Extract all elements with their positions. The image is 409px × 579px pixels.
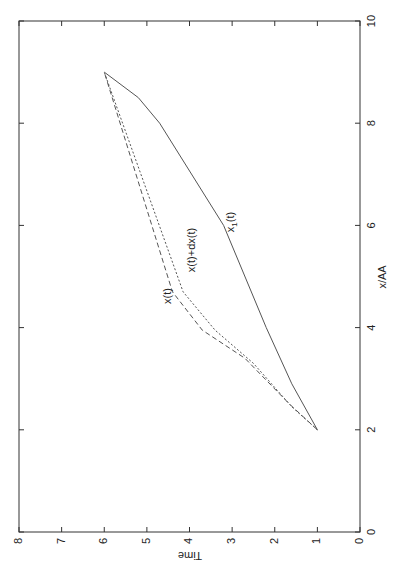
time-tick-label: 8 [12, 538, 24, 544]
time-tick-label: 4 [182, 538, 194, 544]
plot-frame [19, 21, 360, 532]
time-axis-title: Time [178, 550, 202, 562]
xaa-tick-label: 10 [365, 15, 377, 27]
time-tick-label: 5 [140, 538, 152, 544]
xaa-axis-title: x/AA [376, 265, 388, 289]
time-tick-label: 7 [55, 538, 67, 544]
series-lines [104, 72, 317, 430]
time-tick-label: 3 [225, 538, 237, 544]
time-tick-label: 0 [353, 538, 365, 544]
xaa-tick-label: 2 [365, 427, 377, 433]
time-tick-label: 1 [310, 538, 322, 544]
line-chart: 0123456780246810 x1(t)x(t)x(t)+dx(t) Tim… [0, 0, 409, 579]
series-line [104, 72, 317, 430]
xaa-tick-label: 0 [365, 529, 377, 535]
series-label: x(t) [161, 288, 173, 304]
series-label: x1(t) [224, 212, 239, 232]
series-labels: x1(t)x(t)x(t)+dx(t) [161, 212, 239, 304]
series-line [104, 72, 317, 430]
xaa-tick-label: 8 [365, 120, 377, 126]
series-label: x(t)+dx(t) [185, 228, 197, 272]
xaa-tick-label: 4 [365, 325, 377, 331]
time-tick-label: 2 [268, 538, 280, 544]
time-tick-label: 6 [97, 538, 109, 544]
series-line [104, 72, 317, 430]
xaa-tick-label: 6 [365, 222, 377, 228]
axis-ticks: 0123456780246810 [12, 15, 377, 544]
